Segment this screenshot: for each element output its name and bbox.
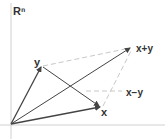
space-label: Rⁿ (13, 5, 25, 17)
label-x-plus-y: x+y (136, 43, 153, 54)
vector-y (11, 67, 41, 124)
label-x: x (101, 106, 108, 118)
label-x-minus-y: x−y (126, 87, 143, 98)
vector-diagram: Rⁿ y x x+y x−y (0, 0, 165, 139)
label-y: y (34, 56, 41, 68)
dashed-y-to-xplusy (43, 48, 130, 66)
